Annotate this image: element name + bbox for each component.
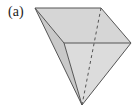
front-face (64, 43, 131, 105)
inverted-pyramid-diagram (0, 0, 137, 106)
